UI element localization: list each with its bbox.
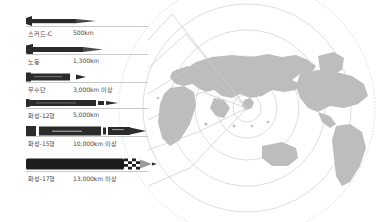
landmass-island [157, 97, 159, 99]
row-rule [26, 82, 148, 83]
row-rule [26, 54, 148, 55]
missile-name-label: 화성-17형 [28, 174, 55, 183]
missile-range-label: 5,000km [73, 111, 99, 118]
missile-range-label: 10,000km 이상 [73, 139, 117, 148]
missile-name-label: 무수단 [28, 85, 46, 94]
landmass-australia [262, 142, 298, 166]
missile-range-label: 13,000km 이상 [73, 174, 117, 183]
row-rule [26, 108, 148, 109]
landmass-island [204, 122, 207, 125]
landmass-island [233, 125, 236, 128]
landmass-north-america [296, 70, 368, 112]
landmass-south-america [332, 124, 366, 186]
row-rule [26, 26, 148, 27]
missile-range-label: 1,300km [73, 57, 99, 64]
landmasses [157, 52, 368, 186]
landmass-island [267, 121, 270, 124]
missile-name-label: 화성-15형 [28, 139, 55, 148]
missile-name-label: 화성-12형 [28, 111, 55, 120]
missile-range-label: 3,000km 이상 [73, 85, 113, 94]
range-rings [119, 0, 375, 222]
missile-name-label: 노동 [28, 57, 40, 66]
landmass-central-america [318, 112, 336, 128]
row-rule [26, 171, 148, 172]
missile-range-infographic: 스커드-C 500km 노동 1,300km 무수단 3,000km 이상 [0, 0, 387, 222]
landmass-island [251, 125, 253, 127]
checkerboard-band [124, 159, 140, 170]
missile-range-label: 500km [73, 29, 94, 36]
landmass-island [299, 61, 302, 64]
landmass-africa [158, 86, 196, 146]
world-map-with-range-rings [0, 0, 387, 222]
range-ring-6 [119, 0, 375, 222]
missile-name-label: 스커드-C [28, 29, 52, 38]
missile-silhouette-hwasong-17 [26, 157, 158, 172]
row-rule [26, 136, 148, 137]
